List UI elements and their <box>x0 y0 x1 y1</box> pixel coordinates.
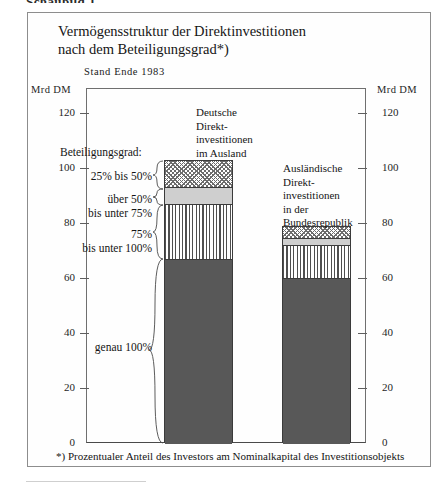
axis-tick-mark-right-100 <box>358 168 367 169</box>
axis-tick-label-left-60: 60 <box>41 271 75 283</box>
axis-tick-mark-left-100 <box>80 168 89 169</box>
legend-item-50-75: über 50% bis unter 75% <box>60 193 152 220</box>
axis-unit-right: Mrd DM <box>377 84 417 95</box>
page-title: Vermögensstruktur der Direktinvestitione… <box>58 22 306 58</box>
footnote: *) Prozentualer Anteil des Investors am … <box>56 450 404 462</box>
axis-tick-mark-left-20 <box>80 388 89 389</box>
axis-tick-mark-right-60 <box>358 278 367 279</box>
axis-tick-mark-right-20 <box>358 388 367 389</box>
axis-tick-label-right-80: 80 <box>382 216 416 228</box>
axis-tick-label-right-60: 60 <box>382 271 416 283</box>
axis-unit-left: Mrd DM <box>31 84 71 95</box>
axis-tick-mark-left-40 <box>80 333 89 334</box>
bar-segment-25-50 <box>165 161 232 189</box>
legend-title: Beteiligungsgrad: <box>60 146 142 158</box>
chart-subtitle: Stand Ende 1983 <box>84 66 165 77</box>
axis-tick-mark-left-60 <box>80 278 89 279</box>
axis-tick-label-right-20: 20 <box>382 381 416 393</box>
bar-segment-75-100 <box>283 246 350 279</box>
axis-tick-label-right-120: 120 <box>382 106 416 118</box>
axis-tick-mark-right-80 <box>358 223 367 224</box>
legend-brace-25-50 <box>152 160 164 190</box>
axis-tick-label-right-0: 0 <box>382 436 416 448</box>
bar-auslaendische-direktinvestitionen-in-der-bundesrepublik[interactable] <box>282 226 351 443</box>
legend-brace-exact-100 <box>148 258 164 444</box>
axis-tick-label-left-40: 40 <box>41 326 75 338</box>
bar-segment-exact-100 <box>165 260 232 444</box>
bottom-rule <box>26 481 146 482</box>
legend-item-exact-100: genau 100% <box>60 341 152 355</box>
bar-segment-50-75 <box>165 188 232 205</box>
axis-tick-mark-left-120 <box>80 113 89 114</box>
axis-tick-label-left-120: 120 <box>41 106 75 118</box>
axis-tick-label-left-0: 0 <box>41 436 75 448</box>
legend-brace-75-100 <box>152 204 164 260</box>
bar-segment-75-100 <box>165 205 232 260</box>
bar-segment-50-75 <box>283 239 350 246</box>
bar-deutsche-direktinvestitionen-im-ausland[interactable] <box>164 160 233 443</box>
axis-tick-mark-right-120 <box>358 113 367 114</box>
bar-heading-right: Ausländische Direkt- investitionen in de… <box>283 162 353 230</box>
bar-heading-left: Deutsche Direkt- investitionen im Auslan… <box>196 106 253 160</box>
legend-item-25-50: 25% bis 50% <box>60 170 152 184</box>
axis-tick-mark-right-40 <box>358 333 367 334</box>
figure-caption: Schaubild 1 <box>26 0 96 3</box>
legend-item-75-100: 75% bis unter 100% <box>60 228 152 255</box>
axis-tick-label-left-20: 20 <box>41 381 75 393</box>
axis-tick-label-right-40: 40 <box>382 326 416 338</box>
axis-tick-mark-left-80 <box>80 223 89 224</box>
bar-segment-exact-100 <box>283 279 350 444</box>
axis-tick-label-right-100: 100 <box>382 161 416 173</box>
